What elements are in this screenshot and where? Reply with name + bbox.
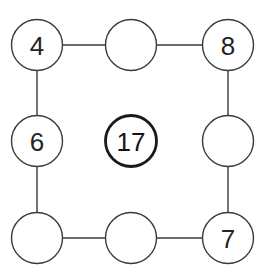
node-circle-bottom-middle[interactable] (106, 213, 157, 264)
node-top-right[interactable]: 8 (203, 20, 254, 71)
node-label-top-left: 4 (30, 31, 44, 61)
node-center[interactable]: 17 (106, 116, 157, 167)
node-circle-middle-right[interactable] (203, 116, 254, 167)
node-top-left[interactable]: 4 (12, 20, 63, 71)
diagram-canvas: 486177 (0, 0, 267, 274)
node-middle-right[interactable] (203, 116, 254, 167)
node-label-bottom-right: 7 (221, 224, 235, 254)
node-label-top-right: 8 (221, 31, 235, 61)
node-label-middle-left: 6 (30, 127, 44, 157)
node-bottom-left[interactable] (12, 213, 63, 264)
node-top-middle[interactable] (106, 20, 157, 71)
node-bottom-right[interactable]: 7 (203, 213, 254, 264)
node-circle-top-middle[interactable] (106, 20, 157, 71)
node-group: 486177 (12, 20, 254, 264)
circle-ring-diagram: 486177 (0, 0, 267, 274)
node-middle-left[interactable]: 6 (12, 116, 63, 167)
node-label-center: 17 (117, 127, 146, 157)
node-bottom-middle[interactable] (106, 213, 157, 264)
node-circle-bottom-left[interactable] (12, 213, 63, 264)
